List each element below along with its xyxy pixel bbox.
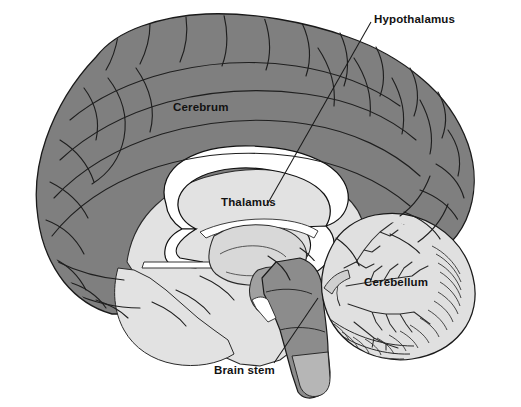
label-brain-stem: Brain stem <box>214 365 275 377</box>
label-cerebellum: Cerebellum <box>364 277 428 289</box>
septum-pellucidum-line <box>142 262 216 268</box>
label-thalamus: Thalamus <box>221 197 276 209</box>
brain-diagram-figure: Hypothalamus Cerebrum Thalamus Cerebellu… <box>0 0 521 407</box>
label-cerebrum: Cerebrum <box>173 102 229 114</box>
label-hypothalamus: Hypothalamus <box>374 14 455 26</box>
